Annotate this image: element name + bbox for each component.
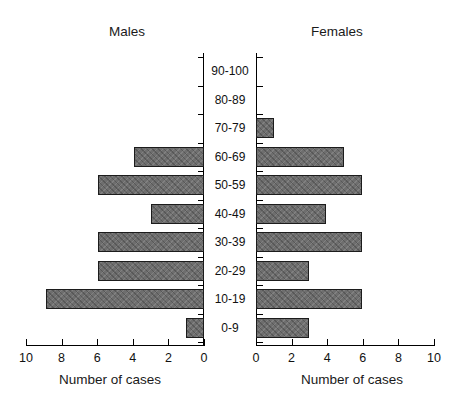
value-tick xyxy=(62,339,63,346)
bar-female-70-79 xyxy=(256,118,274,138)
value-tick xyxy=(434,339,435,346)
age-label-40-49: 40-49 xyxy=(204,200,256,229)
population-pyramid-chart: Males Females 90-10080-8970-7960-6950-59… xyxy=(0,0,462,400)
value-tick xyxy=(398,339,399,346)
bar-male-0-9 xyxy=(186,318,204,338)
bar-male-60-69 xyxy=(134,147,204,167)
bar-row xyxy=(8,228,204,257)
bar-female-50-59 xyxy=(256,175,362,195)
value-tick xyxy=(168,339,169,346)
males-plot-area xyxy=(8,57,204,342)
bar-row xyxy=(8,285,204,314)
value-tick-label: 4 xyxy=(324,351,331,365)
value-tick-label: 4 xyxy=(129,351,136,365)
bar-row xyxy=(256,171,452,200)
bar-row xyxy=(256,314,452,343)
value-tick-label: 6 xyxy=(94,351,101,365)
males-panel-title: Males xyxy=(52,24,202,39)
value-tick xyxy=(256,339,257,346)
value-tick-label: 8 xyxy=(395,351,402,365)
males-bar-rows xyxy=(8,57,204,342)
bar-female-40-49 xyxy=(256,204,326,224)
bar-row xyxy=(8,143,204,172)
value-tick-label: 10 xyxy=(427,351,441,365)
females-axis-caption: Number of cases xyxy=(252,372,452,387)
age-label-10-19: 10-19 xyxy=(204,285,256,314)
bar-male-30-39 xyxy=(98,232,204,252)
value-tick xyxy=(327,339,328,346)
age-label-30-39: 30-39 xyxy=(204,228,256,257)
value-tick xyxy=(204,339,205,346)
value-tick-label: 10 xyxy=(19,351,33,365)
bar-row xyxy=(8,257,204,286)
bar-row xyxy=(256,257,452,286)
bar-row xyxy=(256,57,452,86)
bar-row xyxy=(8,171,204,200)
age-label-90-100: 90-100 xyxy=(204,57,256,86)
value-tick xyxy=(133,339,134,346)
bar-row xyxy=(8,114,204,143)
bar-male-10-19 xyxy=(46,289,204,309)
bar-row xyxy=(256,114,452,143)
value-tick-label: 6 xyxy=(359,351,366,365)
age-label-70-79: 70-79 xyxy=(204,114,256,143)
bar-row xyxy=(256,285,452,314)
value-tick xyxy=(26,339,27,346)
bar-row xyxy=(256,228,452,257)
bar-row xyxy=(8,314,204,343)
category-tick xyxy=(257,342,263,343)
bar-female-30-39 xyxy=(256,232,362,252)
age-label-80-89: 80-89 xyxy=(204,86,256,115)
value-tick xyxy=(363,339,364,346)
age-label-50-59: 50-59 xyxy=(204,171,256,200)
bar-female-60-69 xyxy=(256,147,344,167)
bar-male-20-29 xyxy=(98,261,204,281)
age-label-60-69: 60-69 xyxy=(204,143,256,172)
bar-row xyxy=(8,57,204,86)
value-tick xyxy=(97,339,98,346)
bar-male-40-49 xyxy=(151,204,204,224)
value-tick xyxy=(292,339,293,346)
females-value-axis: 0246810 xyxy=(256,345,434,346)
age-label-20-29: 20-29 xyxy=(204,257,256,286)
value-tick-label: 2 xyxy=(165,351,172,365)
age-label-0-9: 0-9 xyxy=(204,314,256,343)
females-panel-title: Females xyxy=(262,24,412,39)
bar-row xyxy=(256,200,452,229)
value-tick-label: 0 xyxy=(201,351,208,365)
value-tick-label: 2 xyxy=(288,351,295,365)
bar-female-0-9 xyxy=(256,318,309,338)
bar-row xyxy=(8,200,204,229)
males-value-axis: 1086420 xyxy=(26,345,204,346)
bar-female-20-29 xyxy=(256,261,309,281)
bar-row xyxy=(8,86,204,115)
age-group-labels: 90-10080-8970-7960-6950-5940-4930-3920-2… xyxy=(204,57,256,342)
bar-male-50-59 xyxy=(98,175,204,195)
females-bar-rows xyxy=(256,57,452,342)
bar-female-10-19 xyxy=(256,289,362,309)
value-tick-label: 0 xyxy=(253,351,260,365)
males-axis-caption: Number of cases xyxy=(10,372,210,387)
females-plot-area xyxy=(256,57,452,342)
bar-row xyxy=(256,86,452,115)
bar-row xyxy=(256,143,452,172)
value-tick-label: 8 xyxy=(58,351,65,365)
